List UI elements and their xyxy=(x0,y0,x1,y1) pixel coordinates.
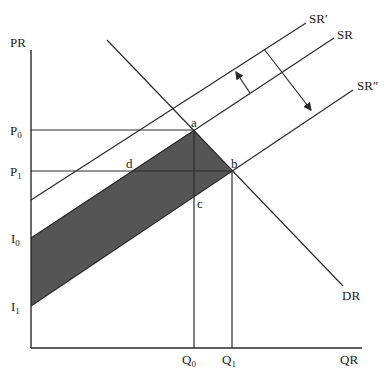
sr-double-prime-label: SR″ xyxy=(357,78,378,93)
point-d-label: d xyxy=(126,156,133,171)
point-a-label: a xyxy=(191,115,197,130)
dr-curve xyxy=(107,40,343,286)
sr-prime-label: SR′ xyxy=(309,11,328,26)
sr-curve xyxy=(31,38,334,238)
shift-arrow-up xyxy=(236,72,250,93)
point-c-label: c xyxy=(197,196,203,211)
i1-label: I1 xyxy=(11,299,20,316)
p0-label: P0 xyxy=(10,123,22,140)
y-axis-label: PR xyxy=(10,35,26,50)
sr-label: SR xyxy=(337,27,353,42)
dr-label: DR xyxy=(342,288,360,303)
i0-label: I0 xyxy=(11,231,20,248)
p1-label: P1 xyxy=(10,164,22,181)
point-b-label: b xyxy=(231,156,238,171)
supply-demand-diagram: PR QR P0 P1 I0 I1 Q0 Q1 SR′ SR SR″ DR a … xyxy=(0,0,385,373)
q0-label: Q0 xyxy=(182,352,196,369)
q1-label: Q1 xyxy=(222,352,236,369)
x-axis-label: QR xyxy=(340,352,358,367)
